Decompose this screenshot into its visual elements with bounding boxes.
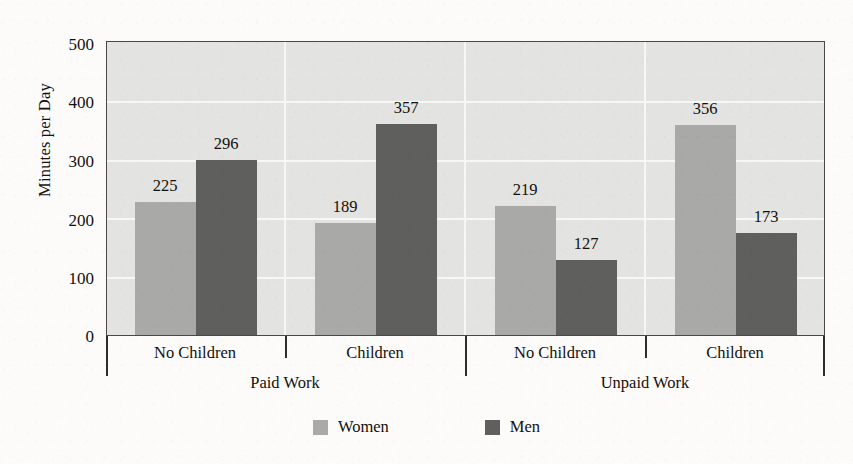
legend-label-women: Women <box>338 419 389 436</box>
x-category-paid-children: Children <box>346 345 404 362</box>
bar-unpaid-children-women <box>675 125 736 335</box>
legend-swatch-women-icon <box>313 420 328 435</box>
x-category-unpaid-children: Children <box>706 345 764 362</box>
x-tick-unpaid-inner <box>645 336 647 358</box>
bar-unpaid-nochildren-men <box>556 260 617 335</box>
y-tick-400: 400 <box>50 94 94 111</box>
x-tick-paid-inner <box>285 336 287 358</box>
plot-area: 225 296 189 357 219 127 356 173 <box>106 41 825 336</box>
bar-paid-nochildren-women <box>135 202 196 335</box>
gridline-vertical-2 <box>464 42 466 335</box>
y-tick-200: 200 <box>50 212 94 229</box>
y-tick-0: 0 <box>50 328 94 345</box>
legend: Women Men <box>0 412 853 442</box>
bar-unpaid-children-men <box>736 233 797 335</box>
x-group-unpaid-work: Unpaid Work <box>601 375 690 392</box>
bar-label-unpaid-nochildren-men: 127 <box>574 236 599 253</box>
x-category-paid-nochildren: No Children <box>154 345 236 362</box>
chart-figure: Minutes per Day 500 400 300 200 100 0 22… <box>0 0 853 464</box>
bar-paid-children-women <box>315 223 376 335</box>
bar-label-paid-children-women: 189 <box>333 199 358 216</box>
y-tick-500: 500 <box>50 36 94 53</box>
bar-unpaid-nochildren-women <box>495 206 556 335</box>
gridline-vertical-3 <box>644 42 646 335</box>
legend-label-men: Men <box>510 419 540 436</box>
legend-swatch-men-icon <box>485 420 500 435</box>
x-tick-left-edge <box>106 336 108 376</box>
bar-paid-children-men <box>376 124 437 335</box>
bar-label-paid-nochildren-women: 225 <box>153 178 178 195</box>
x-tick-group-divider <box>465 336 467 376</box>
y-tick-100: 100 <box>50 270 94 287</box>
legend-entry-women: Women <box>313 419 389 436</box>
y-axis-tick-labels: 500 400 300 200 100 0 <box>42 0 94 464</box>
x-group-paid-work: Paid Work <box>250 375 319 392</box>
legend-entry-men: Men <box>485 419 540 436</box>
bar-label-unpaid-children-women: 356 <box>693 101 718 118</box>
x-tick-right-edge <box>823 336 825 376</box>
bar-paid-nochildren-men <box>196 160 257 335</box>
x-category-unpaid-nochildren: No Children <box>514 345 596 362</box>
gridline-vertical-1 <box>284 42 286 335</box>
bar-label-paid-nochildren-men: 296 <box>214 136 239 153</box>
bar-label-paid-children-men: 357 <box>394 100 419 117</box>
y-tick-300: 300 <box>50 153 94 170</box>
bar-label-unpaid-nochildren-women: 219 <box>513 182 538 199</box>
bar-label-unpaid-children-men: 173 <box>754 209 779 226</box>
